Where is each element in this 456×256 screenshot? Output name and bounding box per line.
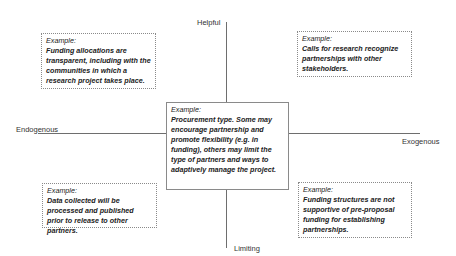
example-body: Funding structures are not supportive of… xyxy=(303,195,407,235)
example-box-center: Example: Procurement type. Some may enco… xyxy=(166,102,289,190)
axis-label-limiting: Limiting xyxy=(234,245,260,253)
example-title: Example: xyxy=(47,186,152,196)
example-box-bottom-right: Example: Funding structures are not supp… xyxy=(298,182,412,238)
example-title: Example: xyxy=(303,185,407,195)
example-title: Example: xyxy=(46,36,151,46)
example-body: Calls for research recognize partnership… xyxy=(302,44,407,74)
example-box-bottom-left: Example: Data collected will be processe… xyxy=(42,183,157,228)
axis-label-helpful: Helpful xyxy=(197,19,220,27)
axis-label-endogenous: Endogenous xyxy=(16,126,58,134)
example-box-top-right: Example: Calls for research recognize pa… xyxy=(297,31,412,77)
example-title: Example: xyxy=(302,34,407,44)
example-body: Data collected will be processed and pub… xyxy=(47,196,152,236)
example-body: Funding allocations are transparent, inc… xyxy=(46,46,151,86)
example-body: Procurement type. Some may encourage par… xyxy=(171,115,284,175)
example-title: Example: xyxy=(171,105,284,115)
axis-label-exogenous: Exogenous xyxy=(402,138,440,146)
example-box-top-left: Example: Funding allocations are transpa… xyxy=(41,33,156,89)
